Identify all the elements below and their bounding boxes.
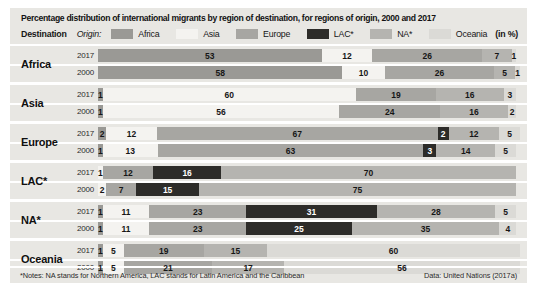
legend: AfricaAsiaEuropeLAC*NA*Oceania — [111, 29, 487, 39]
bar-segment-na: 16 — [436, 88, 504, 101]
segment-value: 15 — [163, 185, 172, 195]
segment-value: 31 — [307, 207, 316, 217]
segment-value: 12 — [469, 129, 478, 139]
segment-value: 35 — [421, 224, 430, 234]
bar-row-2017-lac: 20171121670 — [10, 166, 527, 179]
segment-value: 1 — [98, 107, 103, 117]
year-label: 2017 — [66, 207, 98, 216]
legend-entry-asia: Asia — [176, 29, 219, 39]
bar-segment-europe: 63 — [158, 144, 424, 157]
segment-value: 25 — [294, 224, 303, 234]
segment-value: 1 — [98, 146, 103, 156]
bar-segment-asia: 12 — [106, 127, 156, 140]
segment-value: 5 — [502, 68, 507, 78]
legend-entry-africa: Africa — [111, 29, 159, 39]
group-label: Africa — [21, 58, 51, 70]
bar-row-2017-na: 20171112331285 — [10, 205, 527, 218]
chart-panel: Percentage distribution of international… — [10, 8, 527, 283]
bar-segment-na: 35 — [352, 222, 500, 235]
bar-segment-europe: 12 — [103, 166, 154, 179]
stacked-bar: 15624162 — [98, 105, 520, 118]
segment-value: 2 — [510, 107, 515, 117]
stacked-bar: 58102651 — [98, 66, 520, 79]
segment-value: 14 — [461, 146, 470, 156]
bar-segment-africa: 1 — [98, 261, 103, 274]
bar-segment-africa: 1 — [98, 205, 103, 218]
legend-entry-europe: Europe — [236, 29, 290, 39]
year-label: 2000 — [66, 224, 98, 233]
bar-row-2000-europe: 2000113633145 — [10, 142, 527, 157]
segment-value: 58 — [216, 68, 225, 78]
segment-value: 1 — [98, 168, 103, 178]
bar-row-2000-africa: 200058102651 — [10, 64, 527, 79]
bar-segment-asia: 13 — [103, 144, 158, 157]
segment-value: 15 — [231, 246, 240, 256]
bar-segment-africa: 1 — [98, 144, 103, 157]
bar-segment-oceania: 3 — [504, 88, 517, 101]
segment-value: 63 — [286, 146, 295, 156]
bar-segment-oceania: 4 — [499, 222, 516, 235]
bar-segment-oceania: 5 — [499, 127, 520, 140]
group-label: Oceania — [21, 253, 62, 265]
bar-row-2017-europe: 2017212672125 — [10, 127, 527, 140]
bar-segment-asia: 10 — [342, 66, 384, 79]
segment-value: 23 — [193, 224, 202, 234]
segment-value: 4 — [505, 224, 510, 234]
segment-value: 1 — [98, 207, 103, 217]
legend-label: Asia — [203, 29, 219, 39]
bar-segment-europe: 7 — [106, 183, 136, 196]
segment-value: 2 — [100, 129, 105, 139]
bar-segment-na: 75 — [199, 183, 516, 196]
bar-segment-lac: 2 — [438, 127, 449, 140]
bar-segment-asia: 60 — [103, 88, 356, 101]
segment-value: 2 — [441, 129, 446, 139]
bar-segment-oceania: 1 — [512, 49, 517, 62]
group-africa: Africa201753122671200058102651 — [10, 46, 527, 82]
group-asia: Asia201716019163200015624162 — [10, 82, 527, 121]
bar-segment-asia: 11 — [103, 222, 149, 235]
segment-value: 60 — [389, 246, 398, 256]
segment-value: 1 — [515, 68, 520, 78]
segment-value: 24 — [385, 107, 394, 117]
legend-swatch-asia — [176, 29, 198, 39]
bar-segment-africa: 1 — [98, 105, 103, 118]
year-label: 2017 — [66, 168, 98, 177]
stacked-bar: 113633145 — [98, 144, 520, 157]
chart-title: Percentage distribution of international… — [10, 8, 527, 25]
segment-value: 5 — [111, 263, 116, 273]
bar-row-2000-asia: 200015624162 — [10, 103, 527, 118]
bar-segment-oceania: 2 — [508, 105, 516, 118]
bar-segment-europe: 23 — [149, 222, 246, 235]
bar-segment-oceania: 1 — [515, 66, 520, 79]
bar-segment-europe: 26 — [385, 66, 495, 79]
bar-segment-europe: 26 — [372, 49, 482, 62]
segment-value: 5 — [503, 146, 508, 156]
bar-segment-na: 5 — [494, 66, 515, 79]
bar-segment-na: 70 — [221, 166, 516, 179]
segment-value: 12 — [342, 51, 351, 61]
segment-value: 17 — [243, 263, 252, 273]
group-label: LAC* — [21, 175, 47, 187]
segment-value: 1 — [512, 51, 517, 61]
stacked-bar: 1112325354 — [98, 222, 520, 235]
group-label: Asia — [21, 97, 43, 109]
legend-label: Africa — [138, 29, 159, 39]
legend-swatch-africa — [111, 29, 133, 39]
legend-swatch-oceania — [429, 29, 451, 39]
segment-value: 19 — [159, 246, 168, 256]
bar-segment-africa: 1 — [98, 244, 103, 257]
segment-value: 1 — [98, 224, 103, 234]
destination-column-header: Destination — [21, 29, 67, 39]
legend-swatch-lac — [307, 29, 329, 39]
segment-value: 60 — [225, 90, 234, 100]
year-label: 2017 — [66, 90, 98, 99]
legend-swatch-na — [370, 29, 392, 39]
origin-legend-label: Origin: — [77, 29, 102, 39]
segment-value: 67 — [292, 129, 301, 139]
bar-row-2017-oceania: 201715191560 — [10, 244, 527, 257]
bar-segment-asia: 5 — [103, 244, 124, 257]
bar-segment-na: 12 — [449, 127, 499, 140]
bar-segment-lac: 16 — [153, 166, 221, 179]
stacked-bar: 16019163 — [98, 88, 520, 101]
footer-notes: *Notes: NA stands for Northern America, … — [20, 271, 304, 280]
